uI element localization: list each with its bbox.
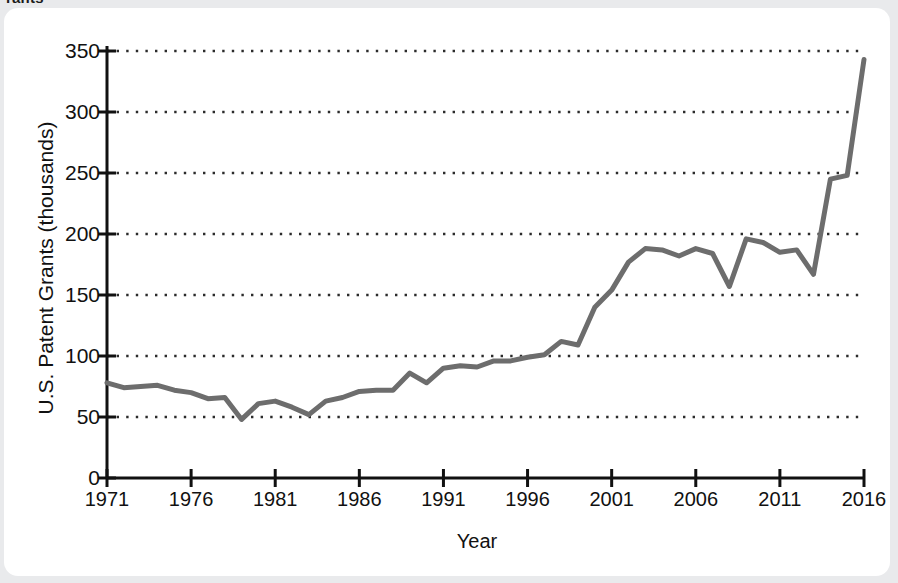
x-axis-tick-label: 2011 [745,488,815,511]
line-chart-figure: 050100150200250300350 197119761981198619… [4,8,890,576]
x-axis-tick-label: 1976 [156,488,226,511]
x-axis-tick-label: 2016 [829,488,898,511]
clipped-caption-text: rants [6,0,44,6]
x-axis-tick-label: 2006 [661,488,731,511]
x-axis-tick-label: 1996 [493,488,563,511]
data-series-line [107,60,864,420]
x-axis-tick-labels: 1971197619811986199119962001200620112016 [4,488,890,522]
x-axis-tick-label: 1991 [408,488,478,511]
chart-card: 050100150200250300350 197119761981198619… [4,8,890,576]
x-axis-tick-label: 1981 [240,488,310,511]
y-axis-title: U.S. Patent Grants (thousands) [34,58,58,478]
x-axis-tick-label: 1971 [72,488,142,511]
x-axis-title: Year [104,530,850,553]
x-axis-tick-label: 1986 [324,488,394,511]
x-axis-tick-label: 2001 [577,488,647,511]
